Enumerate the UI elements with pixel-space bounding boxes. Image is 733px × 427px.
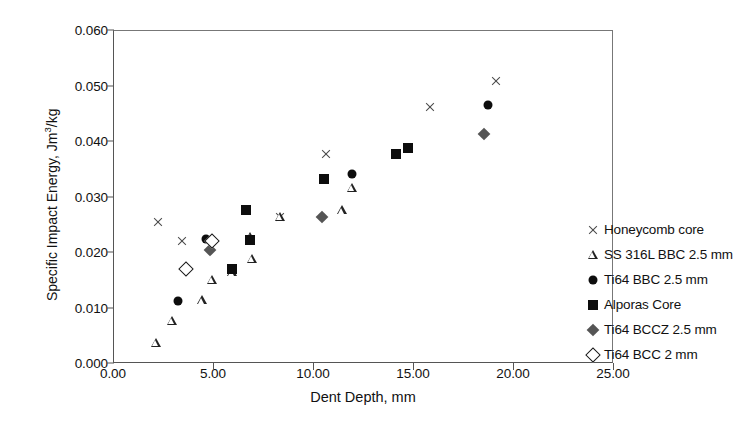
- legend-label: Ti64 BBC 2.5 mm: [604, 272, 708, 287]
- legend-label: SS 316L BBC 2.5 mm: [604, 247, 733, 262]
- data-point: [177, 235, 188, 246]
- triangle-open-marker-icon: [588, 250, 598, 259]
- data-point: [275, 211, 286, 222]
- y-axis-title-tail: /kg: [44, 109, 60, 128]
- data-point: [320, 175, 329, 184]
- y-axis-tick-label: 0.060: [0, 23, 108, 38]
- data-point: [204, 244, 217, 257]
- legend-label: Honeycomb core: [604, 222, 704, 237]
- legend-item-0: Honeycomb core: [584, 217, 733, 242]
- data-point: [316, 211, 329, 224]
- legend-item-4: Ti64 BCCZ 2.5 mm: [584, 317, 733, 342]
- legend-symbol: [584, 298, 604, 312]
- legend-symbol: [584, 348, 604, 362]
- data-point: [245, 232, 255, 241]
- x-axis-tick-mark: [413, 363, 414, 370]
- y-axis-tick-label: 0.030: [0, 189, 108, 204]
- y-axis-title-exponent: 3: [42, 127, 53, 132]
- data-point: [348, 170, 357, 179]
- square-filled-marker-icon: [588, 300, 598, 310]
- data-point: [227, 264, 237, 274]
- legend-symbol: [584, 223, 604, 237]
- y-axis-tick-label: 0.040: [0, 134, 108, 149]
- legend-label: Ti64 BCC 2 mm: [604, 347, 698, 362]
- data-point: [197, 295, 207, 304]
- data-point: [321, 149, 332, 160]
- y-axis-tick-label: 0.010: [0, 300, 108, 315]
- data-point: [241, 205, 251, 215]
- legend-symbol: [584, 323, 604, 337]
- data-point: [207, 275, 217, 284]
- data-point: [151, 338, 161, 347]
- x-axis-tick-mark: [313, 363, 314, 370]
- legend-label: Ti64 BCCZ 2.5 mm: [604, 322, 717, 337]
- x-axis-tick-mark: [213, 363, 214, 370]
- legend-item-2: Ti64 BBC 2.5 mm: [584, 267, 733, 292]
- data-point: [484, 101, 493, 110]
- y-axis-title-base: Specific Impact Energy, Jm: [44, 133, 60, 302]
- data-point: [275, 212, 285, 221]
- data-point: [174, 296, 183, 305]
- diamond-open-marker-icon: [585, 347, 601, 363]
- data-point: [337, 205, 347, 214]
- circle-filled-marker-icon: [589, 275, 598, 284]
- legend-symbol: [584, 273, 604, 287]
- legend-symbol: [584, 248, 604, 262]
- legend: Honeycomb coreSS 316L BBC 2.5 mmTi64 BBC…: [584, 217, 733, 367]
- data-point: [204, 233, 220, 249]
- data-point: [347, 183, 357, 192]
- legend-label: Alporas Core: [604, 297, 681, 312]
- data-point: [247, 254, 257, 263]
- y-axis-tick-label: 0.050: [0, 78, 108, 93]
- x-axis-title: Dent Depth, mm: [113, 389, 613, 405]
- data-point: [153, 217, 164, 228]
- legend-item-3: Alporas Core: [584, 292, 733, 317]
- data-point: [178, 261, 194, 277]
- data-point: [491, 75, 502, 86]
- data-point: [319, 174, 329, 184]
- data-point: [391, 149, 401, 159]
- legend-item-5: Ti64 BCC 2 mm: [584, 342, 733, 367]
- y-axis-tick-label: 0.020: [0, 245, 108, 260]
- diamond-filled-marker-icon: [587, 323, 600, 336]
- y-axis-tick-label: 0.000: [0, 356, 108, 371]
- cross-marker-icon: [588, 224, 599, 235]
- data-point: [167, 316, 177, 325]
- x-axis-tick-label: 0.00: [100, 366, 126, 381]
- data-point: [478, 127, 491, 140]
- plot-area: Honeycomb coreSS 316L BBC 2.5 mmTi64 BBC…: [113, 30, 613, 363]
- data-point: [425, 102, 436, 113]
- data-point: [403, 143, 413, 153]
- x-axis-tick-mark: [513, 363, 514, 370]
- legend-item-1: SS 316L BBC 2.5 mm: [584, 242, 733, 267]
- data-point: [227, 267, 237, 276]
- data-point: [245, 235, 255, 245]
- data-point: [202, 234, 211, 243]
